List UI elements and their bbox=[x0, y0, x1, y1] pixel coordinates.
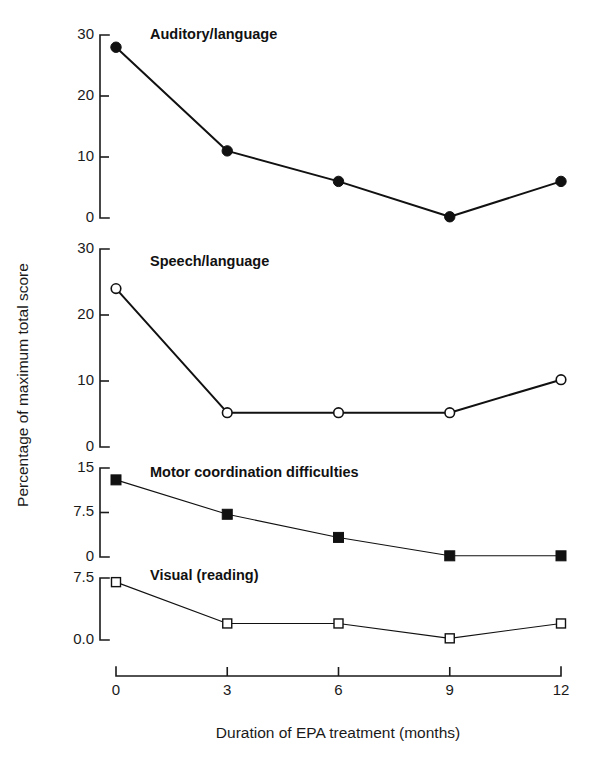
data-point-marker bbox=[111, 42, 121, 52]
y-tick-label: 30 bbox=[77, 239, 94, 256]
y-tick-label: 20 bbox=[77, 86, 94, 103]
data-point-marker bbox=[445, 551, 455, 561]
data-point-marker bbox=[333, 176, 343, 186]
y-tick-label: 20 bbox=[77, 305, 94, 322]
panel-2-title: Speech/language bbox=[150, 253, 269, 269]
data-point-marker bbox=[557, 619, 566, 628]
x-tick-label: 3 bbox=[223, 681, 231, 698]
data-point-marker bbox=[111, 284, 121, 294]
data-point-marker bbox=[445, 212, 455, 222]
panel-1: 0102030Auditory/language bbox=[77, 25, 566, 225]
y-tick-label: 0 bbox=[86, 208, 94, 225]
panel-3: 07.515Motor coordination difficulties bbox=[73, 458, 566, 564]
data-point-marker bbox=[111, 475, 121, 485]
x-axis-title-text: Duration of EPA treatment (months) bbox=[216, 724, 460, 741]
y-tick-label: 30 bbox=[77, 25, 94, 42]
x-tick-label: 0 bbox=[112, 681, 120, 698]
panel-1-title: Auditory/language bbox=[150, 26, 277, 42]
data-point-marker bbox=[334, 619, 343, 628]
series-line bbox=[116, 480, 561, 556]
series-line bbox=[116, 289, 561, 413]
y-tick-label: 0.0 bbox=[73, 630, 94, 647]
y-tick-label: 0 bbox=[86, 437, 94, 454]
data-point-marker bbox=[334, 532, 344, 542]
panel-4: 0.07.5Visual (reading) bbox=[73, 567, 565, 647]
x-axis-title: Duration of EPA treatment (months) bbox=[216, 724, 460, 741]
data-point-marker bbox=[222, 408, 232, 418]
panel-2-y-axis-spine bbox=[100, 249, 109, 447]
data-point-marker bbox=[223, 619, 232, 628]
panel-2: 0102030Speech/language bbox=[77, 239, 565, 454]
y-axis-title: Percentage of maximum total score bbox=[14, 263, 31, 507]
data-point-marker bbox=[222, 509, 232, 519]
y-tick-label: 15 bbox=[77, 458, 94, 475]
multi-panel-line-chart: Percentage of maximum total score 010203… bbox=[0, 0, 592, 762]
panels-group: 0102030Auditory/language0102030Speech/la… bbox=[73, 25, 566, 647]
x-tick-label: 9 bbox=[446, 681, 454, 698]
y-tick-label: 0 bbox=[86, 547, 94, 564]
data-point-marker bbox=[556, 176, 566, 186]
panel-4-title: Visual (reading) bbox=[150, 567, 259, 583]
data-point-marker bbox=[445, 634, 454, 643]
x-tick-label: 12 bbox=[553, 681, 570, 698]
data-point-marker bbox=[334, 408, 344, 418]
y-tick-label: 7.5 bbox=[73, 568, 94, 585]
data-point-marker bbox=[556, 375, 566, 385]
data-point-marker bbox=[445, 408, 455, 418]
y-tick-label: 7.5 bbox=[73, 502, 94, 519]
data-point-marker bbox=[556, 551, 566, 561]
panel-4-y-axis-spine bbox=[100, 578, 109, 640]
y-axis-title-text: Percentage of maximum total score bbox=[14, 263, 31, 507]
data-point-marker bbox=[112, 578, 121, 587]
y-tick-label: 10 bbox=[77, 371, 94, 388]
series-line bbox=[116, 47, 561, 217]
x-axis: 036912 bbox=[112, 667, 570, 698]
data-point-marker bbox=[222, 146, 232, 156]
y-tick-label: 10 bbox=[77, 147, 94, 164]
panel-1-y-axis-spine bbox=[100, 35, 109, 218]
panel-3-title: Motor coordination difficulties bbox=[150, 464, 359, 480]
x-tick-label: 6 bbox=[334, 681, 342, 698]
series-line bbox=[116, 582, 561, 638]
figure-root: Percentage of maximum total score 010203… bbox=[0, 0, 592, 762]
